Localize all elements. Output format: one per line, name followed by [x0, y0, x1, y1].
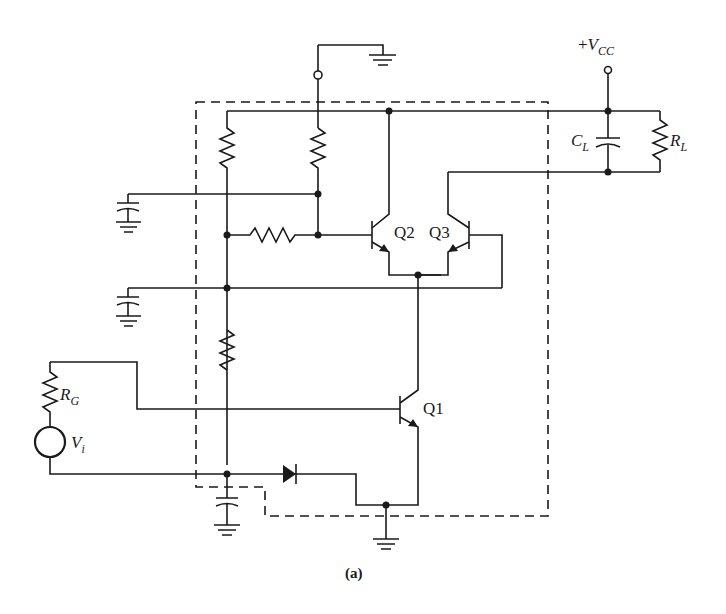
upper-bypass-capacitor	[116, 194, 318, 232]
figure-caption: (a)	[345, 565, 363, 582]
vcc-label: +VCC	[578, 35, 615, 58]
bottom-bypass-capacitor	[214, 474, 240, 535]
transistor-q1	[295, 396, 418, 505]
ic-boundary	[196, 102, 548, 516]
mid-top-resistor	[311, 128, 325, 235]
rl-label: RL	[669, 131, 687, 154]
circuit-diagram: +VCC CL RL Q2 Q3	[0, 0, 726, 614]
bias-resistor	[227, 228, 372, 242]
q3-label: Q3	[429, 223, 450, 242]
transistor-q2	[372, 111, 441, 275]
source-resistor	[43, 362, 57, 427]
q2-label: Q2	[394, 223, 415, 242]
q1-label: Q1	[423, 399, 444, 418]
input-voltage-source	[35, 427, 227, 474]
lower-bypass-capacitor	[116, 288, 502, 326]
cl-label: CL	[571, 131, 589, 154]
diode	[227, 464, 296, 484]
load-capacitor	[596, 111, 620, 172]
vi-label: Vi	[71, 433, 85, 456]
vcc-terminal	[605, 67, 612, 112]
load-resistor	[653, 111, 667, 172]
top-ground-terminal	[314, 45, 396, 128]
bottom-ground	[373, 502, 399, 550]
rg-label: RG	[59, 385, 79, 408]
